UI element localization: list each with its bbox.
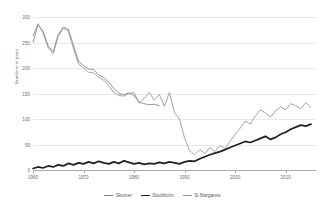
x-tick-label: 1970	[78, 175, 88, 180]
series-lines	[33, 17, 316, 170]
x-tick-mark	[185, 170, 186, 173]
chart-figure: Numbers of pairs 050100150200250300 1960…	[0, 0, 325, 211]
legend-item[interactable]: Skomer	[104, 193, 131, 198]
legend-label: Skomer	[116, 193, 132, 198]
legend-item[interactable]: St Margarets	[183, 193, 221, 198]
x-tick-mark	[235, 170, 236, 173]
x-axis-line	[33, 170, 316, 171]
series-line	[33, 24, 311, 155]
legend-label: Stockholm	[152, 193, 173, 198]
x-tick-mark	[134, 170, 135, 173]
y-tick-label: 100	[22, 117, 30, 122]
y-tick-label: 250	[22, 40, 30, 45]
y-axis-title: Numbers of pairs	[14, 27, 19, 107]
x-tick-label: 1960	[28, 175, 38, 180]
chart-legend: SkomerStockholmSt Margarets	[0, 193, 325, 198]
x-tick-label: 1990	[179, 175, 189, 180]
x-tick-label: 2000	[230, 175, 240, 180]
y-tick-label: 150	[22, 91, 30, 96]
legend-swatch	[141, 195, 150, 196]
x-tick-label: 2010	[281, 175, 291, 180]
y-tick-label: 300	[22, 15, 30, 20]
series-line	[33, 25, 159, 106]
y-tick-label: 200	[22, 66, 30, 71]
plot-area: 050100150200250300	[33, 17, 316, 170]
y-tick-label: 50	[25, 142, 30, 147]
x-tick-mark	[33, 170, 34, 173]
legend-label: St Margarets	[194, 193, 220, 198]
legend-swatch	[183, 195, 192, 196]
legend-swatch	[104, 195, 113, 196]
x-tick-mark	[84, 170, 85, 173]
legend-item[interactable]: Stockholm	[141, 193, 174, 198]
series-line	[33, 124, 311, 168]
y-tick-label: 0	[27, 168, 30, 173]
x-tick-label: 1980	[129, 175, 139, 180]
x-tick-mark	[286, 170, 287, 173]
